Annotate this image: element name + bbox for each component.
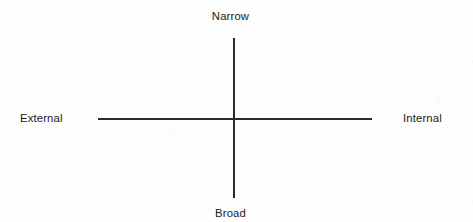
- axis-label-bottom: Broad: [0, 207, 467, 220]
- horizontal-axis-line: [98, 118, 372, 120]
- axis-label-top: Narrow: [0, 10, 467, 23]
- axis-label-left: External: [20, 112, 63, 125]
- paper-texture: [0, 0, 473, 222]
- axis-label-right: Internal: [403, 112, 442, 125]
- axis-diagram: Narrow Broad External Internal: [0, 0, 473, 222]
